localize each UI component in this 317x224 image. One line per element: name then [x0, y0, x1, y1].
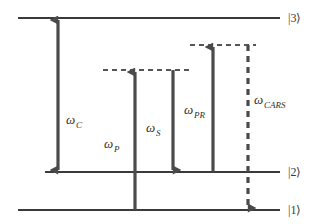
svg-text:C: C — [76, 120, 83, 130]
transition-label-omega-cars: ω CARS — [254, 92, 286, 110]
state-label-3: |3⟩ — [288, 11, 301, 25]
svg-text:ω: ω — [66, 112, 75, 127]
transition-label-omega-c: ω C — [66, 112, 83, 130]
svg-text:ω: ω — [254, 92, 263, 107]
svg-text:S: S — [156, 128, 161, 138]
state-label-1: |1⟩ — [288, 203, 301, 217]
virtual-levels — [103, 45, 256, 70]
transition-arrows — [58, 20, 248, 210]
transition-labels: ω C ω P ω S ω PR ω CARS — [66, 92, 286, 154]
transition-label-omega-s: ω S — [146, 120, 161, 138]
transition-label-omega-p: ω P — [104, 136, 120, 154]
state-ket-labels: |3⟩ |2⟩ |1⟩ — [288, 11, 301, 217]
svg-text:PR: PR — [193, 110, 205, 120]
diagram-canvas: |3⟩ |2⟩ |1⟩ ω C ω P ω S ω PR ω — [0, 0, 317, 224]
transition-label-omega-pr: ω PR — [184, 102, 205, 120]
svg-text:ω: ω — [104, 136, 113, 151]
state-label-2: |2⟩ — [288, 165, 301, 179]
svg-text:CARS: CARS — [264, 100, 286, 110]
svg-text:P: P — [113, 144, 120, 154]
svg-text:ω: ω — [146, 120, 155, 135]
cars-energy-level-diagram: |3⟩ |2⟩ |1⟩ ω C ω P ω S ω PR ω — [0, 0, 317, 224]
svg-text:ω: ω — [184, 102, 193, 117]
